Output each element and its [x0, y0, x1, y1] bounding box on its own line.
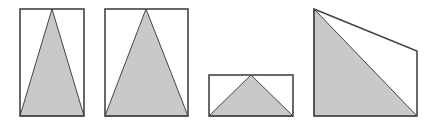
- figure-wide-tall-rectangle-with-triangle: [105, 9, 188, 116]
- figure-short-rectangle-with-triangle: [209, 75, 293, 116]
- diagram-canvas: [0, 0, 436, 124]
- figure-trapezoid-with-triangle: [314, 9, 417, 116]
- shaded-triangle: [105, 9, 188, 116]
- shaded-triangle: [209, 75, 293, 116]
- shaded-triangle: [20, 9, 84, 116]
- figure-tall-rectangle-with-triangle: [20, 9, 84, 116]
- shaded-triangle: [314, 9, 417, 116]
